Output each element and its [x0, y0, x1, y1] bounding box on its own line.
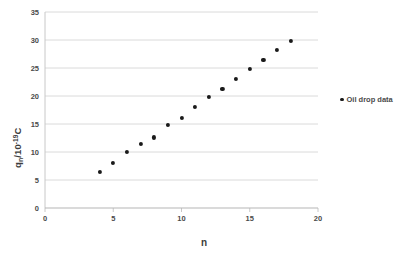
y-axis-title-slash: /10 [12, 144, 23, 158]
x-tick-label: 5 [101, 214, 125, 223]
legend: Oil drop data [340, 95, 393, 104]
y-axis-title-exponent: -19 [12, 134, 19, 144]
x-tick-label: 10 [170, 214, 194, 223]
legend-label: Oil drop data [347, 95, 393, 104]
x-axis-title: n [0, 237, 408, 248]
chart-canvas [0, 0, 408, 258]
y-tick-label: 5 [13, 176, 39, 185]
y-axis-title-unit: C [12, 128, 23, 135]
y-axis-title-sub: n [17, 158, 24, 162]
y-tick-label: 0 [13, 204, 39, 213]
legend-marker-icon [340, 98, 344, 102]
chart-container: 05101520253035 05101520 qn/10-19C n Oil … [0, 0, 408, 258]
chart-background [0, 0, 408, 258]
y-axis-title-q: q [12, 162, 23, 168]
x-tick-label: 0 [33, 214, 57, 223]
x-tick-label: 20 [306, 214, 330, 223]
x-tick-label: 15 [238, 214, 262, 223]
y-axis-title: qn/10-19C [12, 0, 26, 168]
